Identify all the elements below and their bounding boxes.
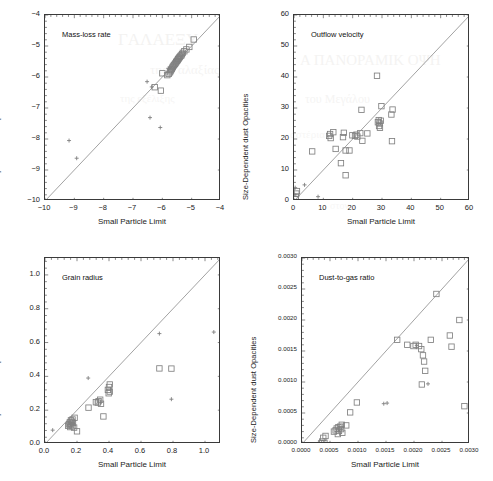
data-point-square bbox=[157, 366, 162, 371]
data-point-square bbox=[343, 173, 348, 178]
x-tick-label: 60 bbox=[449, 203, 489, 212]
plot-canvas bbox=[302, 258, 469, 443]
y-tick-label: 10 bbox=[251, 164, 289, 173]
y-tick-label: 50 bbox=[251, 40, 289, 49]
data-point-square bbox=[420, 353, 425, 358]
x-tick-label: 0.0030 bbox=[449, 446, 489, 453]
series-plus bbox=[382, 317, 469, 406]
data-point-square bbox=[411, 343, 416, 348]
x-axis-label: Small Particle Limit bbox=[301, 460, 469, 469]
data-point-square bbox=[457, 317, 462, 322]
data-point-square bbox=[347, 148, 352, 153]
data-point-square bbox=[158, 88, 163, 93]
data-point-square bbox=[338, 160, 343, 165]
data-point-square bbox=[347, 410, 352, 415]
x-tick-label: 1.0 bbox=[184, 446, 224, 455]
y-tick-label: 1.0 bbox=[2, 269, 40, 278]
y-tick-label: 0.0025 bbox=[259, 283, 297, 290]
y-tick-label: 0.0000 bbox=[259, 438, 297, 445]
data-point-square bbox=[428, 337, 433, 342]
y-tick-label: 60 bbox=[251, 9, 289, 18]
data-point-square bbox=[389, 138, 394, 143]
y-axis-label: Size-Dependent dust Opacities bbox=[0, 94, 1, 200]
x-axis-label: Small Particle Limit bbox=[44, 217, 220, 226]
y-tick-label: 0 bbox=[251, 195, 289, 204]
data-point-square bbox=[421, 359, 426, 364]
data-point-square bbox=[462, 403, 467, 408]
y-tick-label: −6 bbox=[2, 71, 40, 80]
data-point-square bbox=[419, 382, 424, 387]
y-tick-label: 0.0015 bbox=[259, 345, 297, 352]
data-point-square bbox=[413, 342, 418, 347]
data-point-square bbox=[323, 433, 328, 438]
data-point-square bbox=[405, 342, 410, 347]
x-axis-label: Small Particle Limit bbox=[44, 460, 220, 469]
data-point-square bbox=[395, 337, 400, 342]
plot-area-grain-radius bbox=[44, 257, 220, 443]
panel-grain-radius: Grain radius0.00.20.40.60.81.00.00.20.40… bbox=[0, 243, 244, 481]
plot-area-outflow-velocity bbox=[293, 14, 469, 200]
series-plus bbox=[67, 66, 170, 160]
data-point-square bbox=[86, 405, 91, 410]
series-squares bbox=[66, 366, 175, 434]
y-tick-label: 0.2 bbox=[2, 404, 40, 413]
panel-dust-to-gas-ratio: Dust-to-gas ratio0.00000.00050.00100.001… bbox=[249, 243, 493, 481]
data-point-square bbox=[447, 333, 452, 338]
data-point-square bbox=[309, 149, 314, 154]
data-point-square bbox=[331, 129, 336, 134]
y-axis-label: Size-Dependent dust Opacities bbox=[0, 337, 1, 443]
y-axis-label: Size-Dependent dust Opacities bbox=[241, 94, 250, 200]
y-tick-label: −4 bbox=[2, 9, 40, 18]
y-tick-label: 20 bbox=[251, 133, 289, 142]
y-tick-label: 0.0010 bbox=[259, 376, 297, 383]
y-tick-label: −5 bbox=[2, 40, 40, 49]
y-axis-label: Size-Dependent dust Opacities bbox=[249, 337, 258, 443]
data-point-square bbox=[449, 344, 454, 349]
data-point-square bbox=[101, 414, 106, 419]
panel-title: Grain radius bbox=[62, 273, 103, 282]
identity-line bbox=[45, 258, 220, 443]
identity-line bbox=[45, 15, 220, 200]
x-axis-label: Small Particle Limit bbox=[293, 217, 469, 226]
y-tick-label: −10 bbox=[2, 195, 40, 204]
data-point-square bbox=[354, 400, 359, 405]
panel-mass-loss-rate: Mass-loss rate−10−9−8−7−6−5−4−10−9−8−7−6… bbox=[0, 0, 244, 240]
plot-canvas bbox=[45, 258, 220, 443]
y-tick-label: 0.0030 bbox=[259, 252, 297, 259]
y-tick-label: 0.8 bbox=[2, 303, 40, 312]
plot-canvas bbox=[45, 15, 220, 200]
y-tick-label: 0.0020 bbox=[259, 314, 297, 321]
y-tick-label: 0.0 bbox=[2, 438, 40, 447]
plot-area-mass-loss-rate bbox=[44, 14, 220, 200]
data-point-square bbox=[169, 366, 174, 371]
series-squares bbox=[318, 291, 467, 443]
panel-title: Outflow velocity bbox=[311, 30, 364, 39]
identity-line bbox=[294, 15, 469, 200]
y-tick-label: 0.4 bbox=[2, 370, 40, 379]
panel-title: Dust-to-gas ratio bbox=[319, 273, 374, 282]
plot-canvas bbox=[294, 15, 469, 200]
data-point-square bbox=[333, 146, 338, 151]
data-point-square bbox=[434, 291, 439, 296]
y-tick-label: 0.0005 bbox=[259, 407, 297, 414]
panel-title: Mass-loss rate bbox=[62, 30, 111, 39]
x-tick-label: −4 bbox=[200, 203, 240, 212]
data-point-square bbox=[423, 368, 428, 373]
y-tick-label: 30 bbox=[251, 102, 289, 111]
data-point-square bbox=[365, 131, 370, 136]
y-tick-label: −8 bbox=[2, 133, 40, 142]
y-tick-label: 0.6 bbox=[2, 337, 40, 346]
data-point-square bbox=[359, 107, 364, 112]
panel-outflow-velocity: Outflow velocity010203040506001020304050… bbox=[249, 0, 493, 240]
data-point-square bbox=[374, 73, 379, 78]
y-tick-label: 40 bbox=[251, 71, 289, 80]
y-tick-label: −7 bbox=[2, 102, 40, 111]
series-squares bbox=[294, 73, 395, 200]
identity-line bbox=[302, 258, 469, 443]
y-tick-label: −9 bbox=[2, 164, 40, 173]
series-squares bbox=[152, 37, 196, 94]
figure-root: ΓAΛAEΞYA ΠANOPAMIK OΨHτης Γαλαξίαςτου Με… bbox=[0, 0, 493, 481]
plot-area-dust-to-gas-ratio bbox=[301, 257, 469, 443]
